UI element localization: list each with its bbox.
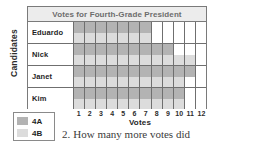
row-label-eduardo: Eduardo <box>28 22 74 43</box>
question-number: 2. <box>62 128 70 140</box>
grid-cell <box>174 22 185 43</box>
row-bars-janet <box>74 66 206 87</box>
legend-label-4a: 4A <box>32 117 42 126</box>
worksheet-figure: Candidates Votes for Fourth-Grade Presid… <box>0 0 258 146</box>
plot-area: Eduardo <box>28 22 206 109</box>
table-row: Eduardo <box>28 22 206 44</box>
x-axis-label: Votes <box>73 118 207 127</box>
row-label-kim: Kim <box>28 88 74 109</box>
y-axis-label: Candidates <box>9 18 19 88</box>
grid-cell <box>196 22 206 43</box>
grid-cell <box>152 22 163 43</box>
bar-eduardo-4a <box>74 22 151 33</box>
table-row: Kim <box>28 88 206 109</box>
row-bars-nick <box>74 44 206 65</box>
grid-cell <box>185 88 196 109</box>
legend-swatch-icon-4b <box>17 129 28 137</box>
bar-eduardo-4b <box>74 33 151 44</box>
grid-cell <box>196 88 206 109</box>
bar-kim-4a <box>74 88 184 99</box>
bar-nick-4b <box>74 55 195 66</box>
row-bars-eduardo <box>74 22 206 43</box>
bar-kim-4b <box>74 99 184 110</box>
row-bars-kim <box>74 88 206 109</box>
grid-cell <box>196 44 206 65</box>
bar-janet-4b <box>74 77 184 88</box>
legend: 4A 4B <box>13 112 55 141</box>
legend-item-4b: 4B <box>17 127 54 139</box>
chart-title: Votes for Fourth-Grade President <box>28 7 206 22</box>
grid-cell <box>163 22 174 43</box>
legend-swatch-icon-4a <box>17 117 28 125</box>
question-caption: 2.How many more votes did <box>62 128 190 140</box>
grid-cell <box>196 66 206 87</box>
legend-item-4a: 4A <box>17 115 54 127</box>
bar-chart: Votes for Fourth-Grade President Eduardo <box>27 6 207 109</box>
bar-janet-4a <box>74 66 195 77</box>
table-row: Nick <box>28 44 206 66</box>
grid-cell <box>185 22 196 43</box>
table-row: Janet <box>28 66 206 88</box>
row-label-nick: Nick <box>28 44 74 65</box>
row-label-janet: Janet <box>28 66 74 87</box>
question-text: How many more votes did <box>73 128 190 140</box>
legend-label-4b: 4B <box>32 129 42 138</box>
bar-nick-4a <box>74 44 173 55</box>
